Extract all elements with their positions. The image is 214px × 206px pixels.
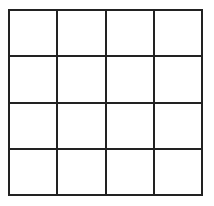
grid-cell-r2-c2 xyxy=(58,57,106,103)
grid-cell-r1-c4 xyxy=(155,11,203,57)
grid-4x4 xyxy=(8,9,203,196)
grid-cell-r4-c2 xyxy=(58,150,106,196)
grid-cell-r3-c1 xyxy=(10,104,58,150)
grid-cell-r3-c3 xyxy=(107,104,155,150)
grid-cell-r2-c3 xyxy=(107,57,155,103)
grid-cell-r4-c3 xyxy=(107,150,155,196)
grid-cell-r2-c1 xyxy=(10,57,58,103)
grid-cell-r4-c4 xyxy=(155,150,203,196)
grid-cell-r3-c2 xyxy=(58,104,106,150)
grid-cell-r3-c4 xyxy=(155,104,203,150)
grid-cell-r1-c1 xyxy=(10,11,58,57)
grid-cell-r2-c4 xyxy=(155,57,203,103)
grid-cell-r1-c2 xyxy=(58,11,106,57)
grid-cell-r1-c3 xyxy=(107,11,155,57)
grid-cell-r4-c1 xyxy=(10,150,58,196)
